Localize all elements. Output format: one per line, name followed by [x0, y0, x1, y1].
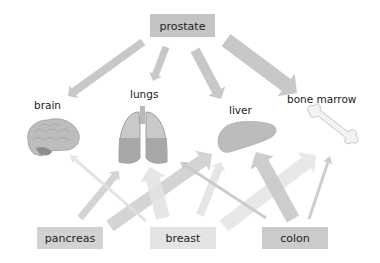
label-pancreas: pancreas	[45, 232, 96, 245]
label-bone-marrow: bone marrow	[287, 93, 357, 105]
arrows-layer	[68, 34, 332, 232]
arrow-prostate-to-liver	[191, 48, 226, 99]
label-brain: brain	[34, 99, 61, 111]
label-colon: colon	[280, 232, 310, 245]
label-prostate: prostate	[160, 20, 206, 33]
arrow-prostate-to-bone-marrow	[222, 34, 298, 96]
bone-icon	[308, 104, 358, 144]
arrow-prostate-to-lungs	[149, 46, 169, 81]
box-prostate: prostate	[150, 14, 215, 37]
box-pancreas: pancreas	[37, 227, 103, 249]
label-breast: breast	[166, 232, 202, 245]
brain-icon	[28, 119, 80, 156]
label-lungs: lungs	[130, 88, 158, 100]
metastasis-diagram: prostate pancreas breast colon brain lun…	[0, 0, 380, 263]
box-colon: colon	[262, 227, 328, 249]
label-liver: liver	[229, 104, 253, 116]
liver-icon	[218, 121, 276, 152]
box-breast: breast	[150, 227, 216, 249]
lungs-icon	[119, 106, 167, 163]
